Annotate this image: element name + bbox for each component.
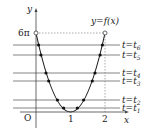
- level-label-t5: t=t5: [122, 50, 141, 61]
- parabola-diagram: y x O 1 2 6π y=f(x) t=t6 t=t5 t=t4 t=t3 …: [0, 0, 157, 139]
- x-tick-2: 2: [102, 114, 108, 124]
- open-endpoint-right: [103, 31, 107, 35]
- y-axis-label: y: [26, 4, 33, 14]
- curve-label: y=f(x): [90, 16, 120, 26]
- x-tick-1: 1: [68, 114, 74, 124]
- x-axis-label: x: [124, 115, 129, 125]
- origin-label: O: [24, 113, 31, 123]
- open-endpoint-left: [34, 31, 38, 35]
- y-axis-arrow-icon: [35, 8, 38, 12]
- y-tick-6pi: 6π: [18, 28, 30, 38]
- level-lines: [13, 45, 120, 108]
- level-label-t6: t=t6: [122, 40, 141, 51]
- level-labels: t=t6 t=t5 t=t4 t=t3 t=t2 t=t1: [122, 40, 141, 114]
- axes: [20, 10, 126, 128]
